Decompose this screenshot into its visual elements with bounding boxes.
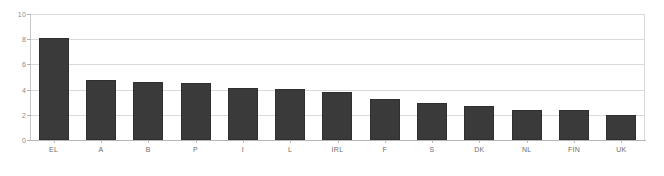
- x-axis-category-label: EL: [49, 146, 58, 153]
- x-tick-mark: [338, 140, 339, 143]
- bar-slot: [172, 14, 219, 140]
- x-tick-mark: [385, 140, 386, 143]
- x-axis-category-label: UK: [616, 146, 626, 153]
- bar-l[interactable]: [275, 89, 305, 140]
- bar-i[interactable]: [228, 88, 258, 140]
- x-axis-category-label: S: [430, 146, 435, 153]
- bar-slot: [30, 14, 77, 140]
- bar-slot: [219, 14, 266, 140]
- bar-s[interactable]: [417, 103, 447, 140]
- x-tick-mark: [148, 140, 149, 143]
- x-tick-mark: [243, 140, 244, 143]
- x-axis-category-label: F: [383, 146, 388, 153]
- bar-slot: [77, 14, 124, 140]
- y-axis-tick-label: 8: [22, 36, 26, 43]
- bar-slot: [267, 14, 314, 140]
- x-axis-category-label: NL: [522, 146, 532, 153]
- x-axis-labels: ELABPILIRLFSDKNLFINUK: [30, 146, 645, 162]
- bar-slot: [125, 14, 172, 140]
- x-tick-mark: [54, 140, 55, 143]
- bar-f[interactable]: [370, 99, 400, 140]
- x-tick-mark: [621, 140, 622, 143]
- bar-slot: [314, 14, 361, 140]
- y-axis-tick-label: 0: [22, 137, 26, 144]
- bar-chart: 0246810 ELABPILIRLFSDKNLFINUK: [0, 0, 664, 176]
- y-axis-tick-label: 6: [22, 61, 26, 68]
- x-tick-mark: [479, 140, 480, 143]
- x-tick-mark: [574, 140, 575, 143]
- bar-slot: [456, 14, 503, 140]
- x-axis-category-label: L: [288, 146, 292, 153]
- bar-slot: [503, 14, 550, 140]
- bar-b[interactable]: [133, 82, 163, 140]
- x-axis-category-label: B: [146, 146, 151, 153]
- x-axis-category-label: A: [98, 146, 103, 153]
- x-tick-mark: [527, 140, 528, 143]
- x-axis-ticks: [30, 140, 645, 144]
- bar-nl[interactable]: [512, 110, 542, 140]
- x-axis-category-label: I: [242, 146, 244, 153]
- bar-p[interactable]: [181, 83, 211, 140]
- x-axis-category-label: DK: [474, 146, 484, 153]
- x-axis-category-label: FIN: [568, 146, 580, 153]
- bar-slot: [598, 14, 645, 140]
- y-axis-tick-label: 4: [22, 86, 26, 93]
- x-axis-category-label: P: [193, 146, 198, 153]
- bar-el[interactable]: [39, 38, 69, 140]
- x-tick-mark: [432, 140, 433, 143]
- bar-dk[interactable]: [464, 106, 494, 140]
- x-axis-category-label: IRL: [332, 146, 344, 153]
- x-tick-mark: [101, 140, 102, 143]
- bar-slot: [550, 14, 597, 140]
- x-tick-mark: [196, 140, 197, 143]
- bar-slot: [361, 14, 408, 140]
- bar-series: [30, 14, 645, 140]
- y-axis-tick-label: 2: [22, 111, 26, 118]
- y-axis-tick-label: 10: [18, 11, 26, 18]
- bar-uk[interactable]: [606, 115, 636, 140]
- bar-irl[interactable]: [322, 92, 352, 140]
- bar-slot: [408, 14, 455, 140]
- bar-fin[interactable]: [559, 110, 589, 140]
- bar-a[interactable]: [86, 80, 116, 140]
- x-tick-mark: [290, 140, 291, 143]
